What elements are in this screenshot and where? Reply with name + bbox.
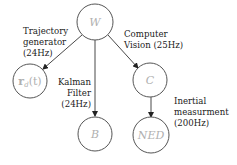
svg-text:Vision (25Hz): Vision (25Hz): [123, 40, 183, 50]
node-ned-label: NED: [137, 129, 165, 142]
svg-text:Filter: Filter: [67, 88, 92, 98]
edge-label-inertial-measurement: Inertial measurment (200Hz): [174, 96, 229, 128]
node-rd-label: rd(t): [18, 75, 41, 89]
node-ned: NED: [133, 117, 169, 153]
svg-text:Computer: Computer: [124, 29, 168, 39]
svg-text:Trajectory: Trajectory: [23, 26, 68, 36]
edge-label-kalman-filter: Kalman Filter (24Hz): [58, 77, 92, 109]
frame-diagram: W rd(t) C B NED Trajectory generator (24…: [0, 0, 237, 165]
svg-text:(200Hz): (200Hz): [174, 118, 209, 128]
svg-text:measurment: measurment: [174, 107, 229, 117]
node-w: W: [77, 4, 113, 40]
svg-text:Inertial: Inertial: [174, 96, 206, 106]
svg-text:(24Hz): (24Hz): [61, 99, 91, 109]
node-rd: rd(t): [13, 64, 47, 98]
node-c-label: C: [146, 74, 155, 87]
edge-label-computer-vision: Computer Vision (25Hz): [123, 29, 183, 50]
node-b: B: [78, 117, 112, 151]
node-b-label: B: [90, 128, 99, 141]
node-c: C: [133, 63, 167, 97]
node-w-label: W: [89, 16, 102, 29]
svg-text:generator: generator: [23, 37, 67, 47]
svg-text:Kalman: Kalman: [58, 77, 92, 87]
svg-text:(24Hz): (24Hz): [23, 48, 53, 58]
